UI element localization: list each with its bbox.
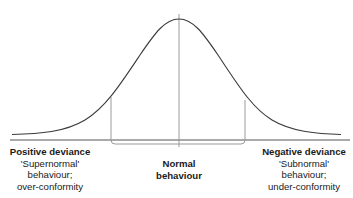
normal-behaviour-label: Normal behaviour xyxy=(139,158,219,181)
positive-deviance-label: Positive deviance 'Supernormal' behaviou… xyxy=(2,146,98,192)
negative-deviance-line-2: behaviour; xyxy=(256,169,352,181)
normal-range-bracket xyxy=(111,140,245,144)
normal-behaviour-line-1: Normal xyxy=(139,158,219,170)
negative-deviance-label: Negative deviance 'Subnormal' behaviour;… xyxy=(256,146,352,192)
positive-deviance-title: Positive deviance xyxy=(2,146,98,158)
normal-behaviour-line-2: behaviour xyxy=(139,170,219,182)
negative-deviance-line-1: 'Subnormal' xyxy=(256,158,352,170)
bell-curve xyxy=(12,19,341,135)
negative-deviance-title: Negative deviance xyxy=(256,146,352,158)
positive-deviance-line-1: 'Supernormal' xyxy=(2,158,98,170)
negative-deviance-line-3: under-conformity xyxy=(256,181,352,193)
positive-deviance-line-3: over-conformity xyxy=(2,181,98,193)
positive-deviance-line-2: behaviour; xyxy=(2,169,98,181)
